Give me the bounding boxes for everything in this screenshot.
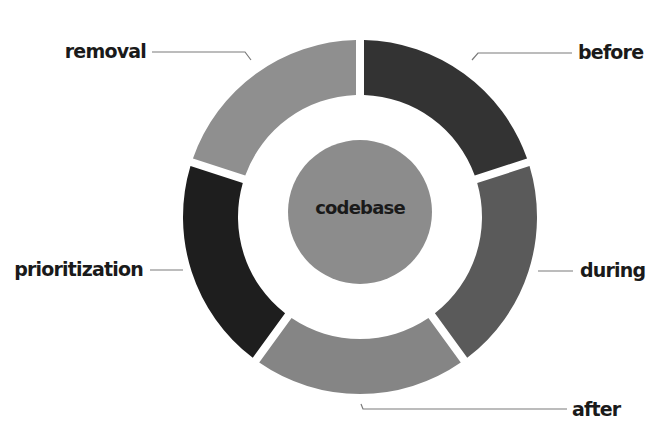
label-before: before — [578, 41, 643, 63]
center-label: codebase — [315, 197, 405, 218]
leader-line-after — [361, 404, 567, 409]
label-removal: removal — [65, 40, 146, 62]
segment-after — [259, 318, 461, 394]
leader-line-removal — [152, 52, 251, 60]
segment-during — [435, 166, 537, 358]
leader-line-before — [472, 53, 572, 60]
label-after: after — [572, 398, 622, 420]
label-prioritization: prioritization — [14, 258, 143, 280]
label-during: during — [580, 259, 645, 281]
segment-prioritization — [183, 166, 285, 358]
donut-diagram: codebase beforeduringafterprioritization… — [0, 0, 663, 436]
